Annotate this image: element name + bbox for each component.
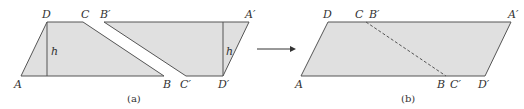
label-d-b: D	[322, 8, 332, 21]
label-h-right: h	[226, 45, 233, 58]
label-c: C	[81, 8, 90, 21]
label-a-prime: A′	[244, 8, 256, 21]
label-a: A	[13, 78, 22, 91]
parallelogram-abcd-prime	[301, 22, 511, 76]
label-c-prime: C′	[180, 78, 191, 91]
label-d-prime-b: D′	[477, 78, 490, 91]
label-d: D	[41, 8, 51, 21]
label-d-prime: D′	[217, 78, 230, 91]
label-c-prime-b: C′	[450, 78, 461, 91]
label-c-b: C	[355, 8, 364, 21]
label-b: B	[162, 78, 171, 91]
label-a-b: A	[294, 78, 303, 91]
label-b-prime: B′	[99, 8, 111, 21]
caption-b: (b)	[401, 93, 415, 104]
label-b-prime-b: B′	[368, 8, 380, 21]
arrow-right-icon	[290, 46, 296, 52]
label-b-b: B	[436, 78, 445, 91]
parallelogram-diagram: A D C B B′ C′ D′ A′ h h (a) A D C B′ B C…	[0, 0, 524, 109]
label-h-left: h	[51, 45, 58, 58]
caption-a: (a)	[127, 93, 141, 104]
label-a-prime-b: A′	[507, 8, 519, 21]
